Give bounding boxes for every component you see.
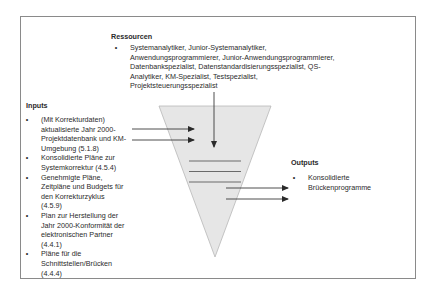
- bullet-icon: •: [291, 173, 297, 183]
- resource-line: Projektsteuerungsspezialist: [130, 81, 413, 91]
- input-item: • (Mit Korrekturdaten) aktualisierte Jah…: [24, 115, 134, 153]
- bullet-icon: •: [24, 173, 30, 183]
- input-line: Genehmigte Pläne,: [41, 173, 134, 183]
- input-line: Jahr 2000-Konformität der: [41, 221, 134, 231]
- bullet-icon: •: [24, 153, 30, 163]
- resource-item: • Systemanalytiker, Junior-Systemanalyti…: [113, 43, 413, 91]
- input-line: Plan zur Herstellung der: [41, 211, 134, 221]
- bullet-icon: •: [113, 43, 119, 53]
- input-line: (4.4.1): [41, 240, 134, 250]
- bullet-icon: •: [24, 115, 30, 125]
- input-line: aktualisierte Jahr 2000-: [41, 125, 134, 135]
- resources-list: • Systemanalytiker, Junior-Systemanalyti…: [113, 43, 413, 91]
- input-line: (Mit Korrekturdaten): [41, 115, 134, 125]
- resources-heading: Ressourcen: [111, 32, 152, 41]
- inputs-heading: Inputs: [26, 101, 48, 110]
- input-item: • Plan zur Herstellung der Jahr 2000-Kon…: [24, 211, 134, 249]
- input-line: Pläne für die: [41, 249, 134, 259]
- resource-line: Datenbankspezialist, Datenstandardisieru…: [130, 62, 413, 72]
- resource-line: Analytiker, KM-Spezialist, Testspezialis…: [130, 72, 413, 82]
- input-line: (4.5.9): [41, 201, 134, 211]
- input-item: • Konsolidierte Pläne zur Systemkorrektu…: [24, 153, 134, 172]
- input-line: Systemkorrektur (4.5.4): [41, 163, 134, 173]
- bullet-icon: •: [24, 249, 30, 259]
- input-line: den Korrekturzyklus: [41, 192, 134, 202]
- input-line: (4.4.4): [41, 269, 134, 279]
- outputs-list: • Konsolidierte Brückenprogramme: [291, 173, 401, 192]
- resource-line: Anwendungsprogrammierer, Junior-Anwendun…: [130, 53, 413, 63]
- input-line: Schnittstellen/Brücken: [41, 259, 134, 269]
- input-item: • Pläne für die Schnittstellen/Brücken (…: [24, 249, 134, 278]
- input-item: • Genehmigte Pläne, Zeitpläne und Budget…: [24, 173, 134, 211]
- inputs-list: • (Mit Korrekturdaten) aktualisierte Jah…: [24, 115, 134, 278]
- outputs-heading: Outputs: [291, 158, 319, 167]
- output-line: Brückenprogramme: [308, 183, 401, 193]
- input-line: Umgebung (5.1.8): [41, 144, 134, 154]
- input-line: Zeitpläne und Budgets für: [41, 182, 134, 192]
- resource-line: Systemanalytiker, Junior-Systemanalytike…: [130, 43, 413, 53]
- input-line: Konsolidierte Pläne zur: [41, 153, 134, 163]
- output-line: Konsolidierte: [308, 173, 401, 183]
- bullet-icon: •: [24, 211, 30, 221]
- output-item: • Konsolidierte Brückenprogramme: [291, 173, 401, 192]
- input-line: Projektdatenbank und KM-: [41, 134, 134, 144]
- input-line: elektronischen Partner: [41, 230, 134, 240]
